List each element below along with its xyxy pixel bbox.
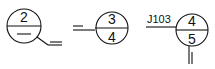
symbol-3-label: J103: [147, 13, 171, 25]
diagram-canvas: 2 3 4 J103 4 5: [0, 0, 215, 69]
symbol-3-top: 4: [188, 13, 196, 29]
symbol-1-top: 2: [20, 9, 28, 25]
reference-symbol-1: 2: [7, 9, 62, 45]
reference-symbol-3: J103 4 5: [146, 13, 208, 64]
symbol-1-leader: [37, 37, 48, 45]
symbol-3-bottom: 5: [188, 31, 196, 47]
symbol-2-top: 3: [108, 11, 116, 27]
symbol-2-bottom: 4: [108, 29, 116, 45]
reference-symbol-2: 3 4: [73, 11, 128, 45]
